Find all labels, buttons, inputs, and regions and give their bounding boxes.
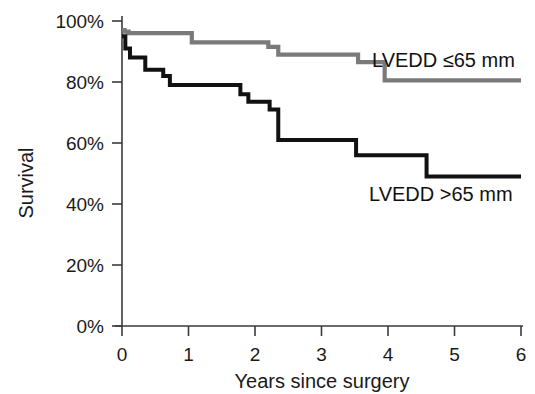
x-axis-title: Years since surgery <box>122 371 522 391</box>
y-axis-tick-label: 0% <box>14 317 104 336</box>
x-axis-tick-marks <box>122 326 521 336</box>
x-axis-tick-label: 5 <box>449 345 460 364</box>
y-axis-tick-label: 100% <box>14 12 104 31</box>
x-axis-tick-label: 0 <box>117 345 128 364</box>
x-axis-tick-label: 4 <box>383 345 394 364</box>
series-label-lvedd-gt-65: LVEDD >65 mm <box>369 184 513 204</box>
y-axis-title: Survival <box>16 113 36 253</box>
y-axis-tick-label: 80% <box>14 73 104 92</box>
x-axis-tick-label: 1 <box>183 345 194 364</box>
y-axis-tick-label: 20% <box>14 256 104 275</box>
x-axis-tick-label: 2 <box>250 345 261 364</box>
x-axis-tick-label: 6 <box>516 345 527 364</box>
series-label-lvedd-le-65: LVEDD ≤65 mm <box>372 50 515 70</box>
y-axis-tick-marks <box>112 21 122 326</box>
survival-chart-figure: 0%20%40%60%80%100% 0123456 Survival Year… <box>0 0 535 394</box>
x-axis-tick-label: 3 <box>316 345 327 364</box>
